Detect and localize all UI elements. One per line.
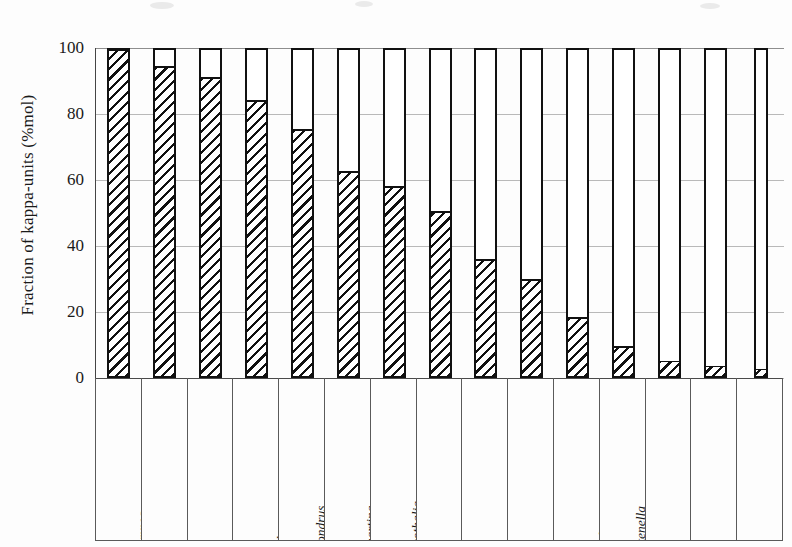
bar-12 bbox=[612, 48, 635, 378]
bar-fill-13 bbox=[660, 361, 679, 376]
bar-fill-1 bbox=[109, 49, 128, 376]
bar-1 bbox=[107, 48, 130, 378]
bar-2 bbox=[153, 48, 176, 378]
scan-artifact bbox=[150, 2, 174, 9]
category-cell-1: Hypneamusciformis bbox=[96, 378, 142, 540]
category-cell-11: Ahnfeltiopsisdevoniensis bbox=[554, 378, 600, 540]
bar-fill-10 bbox=[522, 279, 541, 376]
bar-fill-4 bbox=[247, 100, 266, 376]
bar-10 bbox=[520, 48, 543, 378]
category-cell-4: Eucheumaplatycladum bbox=[233, 378, 279, 540]
category-label-6: Gigartinaskottsbergii bbox=[364, 501, 371, 540]
category-cell-3: Kappaphycusalvarezii bbox=[188, 378, 234, 540]
plot-area bbox=[95, 48, 783, 378]
y-tick-label-60: 60 bbox=[67, 170, 84, 190]
bar-15 bbox=[754, 48, 768, 378]
bar-fill-14 bbox=[706, 366, 725, 376]
bar-8 bbox=[429, 48, 452, 378]
bar-fill-3 bbox=[201, 77, 220, 376]
category-cell-5: Chondruscrispus bbox=[279, 378, 325, 540]
category-cell-7: Sarcothaliacrispata bbox=[371, 378, 417, 540]
y-axis-tick-labels: 020406080100 bbox=[46, 0, 92, 547]
bar-fill-5 bbox=[293, 129, 312, 377]
y-tick-label-0: 0 bbox=[76, 368, 85, 388]
bar-fill-15 bbox=[756, 369, 766, 376]
y-tick-label-40: 40 bbox=[67, 236, 84, 256]
category-cell-15: Agardhiella sp. bbox=[737, 378, 782, 540]
scan-artifact bbox=[700, 3, 720, 9]
category-cell-9: Ahnfeltiopsisdevoniensis bbox=[462, 378, 508, 540]
bar-5 bbox=[291, 48, 314, 378]
bar-4 bbox=[245, 48, 268, 378]
y-tick-label-100: 100 bbox=[59, 38, 85, 58]
bar-fill-6 bbox=[339, 171, 358, 376]
y-tick-label-20: 20 bbox=[67, 302, 84, 322]
scan-artifact bbox=[355, 1, 373, 7]
y-tick-label-80: 80 bbox=[67, 104, 84, 124]
bar-fill-7 bbox=[385, 186, 404, 376]
category-label-5: Chondruscrispus bbox=[314, 505, 325, 540]
category-label-12: Catenellaimpudica bbox=[634, 506, 646, 540]
y-axis-title: Fraction of kappa-units (%mol) bbox=[14, 30, 42, 380]
bar-6 bbox=[337, 48, 360, 378]
bar-fill-11 bbox=[568, 317, 587, 376]
category-cell-10: Ahnfeltiopsisdevoniensis bbox=[508, 378, 554, 540]
category-cell-12: Catenellaimpudica bbox=[600, 378, 646, 540]
bar-13 bbox=[658, 48, 681, 378]
category-cell-13: Eucheumadenticulatum bbox=[646, 378, 692, 540]
bar-fill-9 bbox=[476, 259, 495, 376]
bar-fill-2 bbox=[155, 66, 174, 376]
bar-9 bbox=[474, 48, 497, 378]
category-cell-8: Chondracanthusteedei bbox=[417, 378, 463, 540]
bar-fill-8 bbox=[431, 211, 450, 376]
bar-7 bbox=[383, 48, 406, 378]
category-cell-2: Kappaphycusalvarezii bbox=[142, 378, 188, 540]
bar-14 bbox=[704, 48, 727, 378]
category-label-table: HypneamusciformisKappaphycusalvareziiKap… bbox=[95, 378, 783, 541]
chart-figure: Fraction of kappa-units (%mol) 020406080… bbox=[0, 0, 792, 547]
category-label-7: Sarcothaliacrispata bbox=[410, 501, 417, 540]
bar-fill-12 bbox=[614, 346, 633, 376]
bar-11 bbox=[566, 48, 589, 378]
category-cell-14: Eucheumadenticulatum bbox=[691, 378, 737, 540]
bar-3 bbox=[199, 48, 222, 378]
category-cell-6: Gigartinaskottsbergii bbox=[325, 378, 371, 540]
